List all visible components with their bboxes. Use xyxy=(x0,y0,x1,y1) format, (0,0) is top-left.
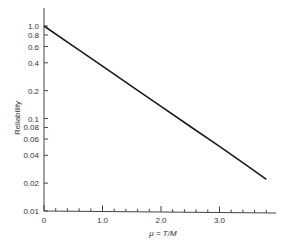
y-tick-label: 0.4 xyxy=(28,59,40,68)
y-tick-label: 0.02 xyxy=(23,179,39,188)
y-tick-label: 0.6 xyxy=(28,43,40,52)
x-axis: 01.02.03.0 xyxy=(42,205,276,225)
x-tick-label: 2.0 xyxy=(155,216,167,225)
y-tick-label: 0.04 xyxy=(23,151,39,160)
reliability-chart: 1.00.80.60.40.20.10.080.060.040.020.01 0… xyxy=(0,0,287,250)
x-tick-label: 0 xyxy=(42,216,47,225)
plot-series xyxy=(44,26,266,179)
x-axis-title: μ = T/M xyxy=(148,229,177,238)
y-tick-label: 0.01 xyxy=(23,207,39,216)
y-tick-label: 0.1 xyxy=(28,115,40,124)
y-tick-label: 0.06 xyxy=(23,135,39,144)
y-tick-label: 0.2 xyxy=(28,87,40,96)
y-tick-label: 0.08 xyxy=(23,123,39,132)
y-axis-title: Reliability xyxy=(13,101,22,135)
y-tick-label: 0.8 xyxy=(28,31,40,40)
y-tick-label: 1.0 xyxy=(28,22,40,31)
x-tick-label: 1.0 xyxy=(97,216,109,225)
x-tick-label: 3.0 xyxy=(214,216,226,225)
reliability-line xyxy=(44,26,266,179)
y-axis: 1.00.80.60.40.20.10.080.060.040.020.01 xyxy=(23,8,48,216)
